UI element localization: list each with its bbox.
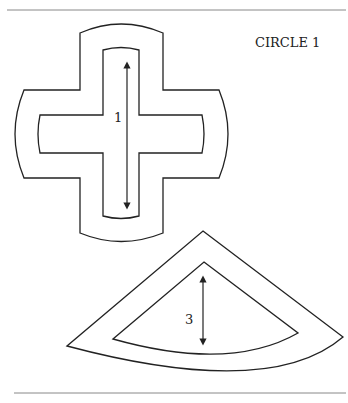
diagram-svg	[0, 0, 348, 403]
cross-outer-outline	[15, 24, 228, 242]
fan-inner-outline	[113, 262, 298, 354]
fan-label: 3	[185, 312, 193, 327]
cross-label: 1	[114, 110, 122, 125]
diagram-title: CIRCLE 1	[255, 35, 320, 50]
fan-outer-outline	[67, 231, 343, 371]
diagram-canvas: CIRCLE 1 1 3	[0, 0, 348, 403]
cross-inner-outline	[38, 48, 204, 219]
